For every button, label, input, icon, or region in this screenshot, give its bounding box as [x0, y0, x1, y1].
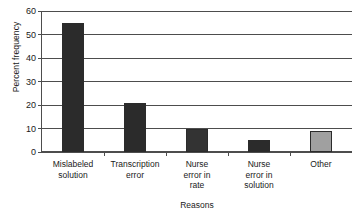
- category-label-line: Mislabeled: [42, 159, 104, 170]
- bar: [248, 140, 270, 152]
- y-axis-tick: [38, 105, 42, 106]
- category-label-line: Transcription: [104, 159, 166, 170]
- gridline: [42, 58, 352, 59]
- y-axis-title: Percent frequency: [11, 0, 21, 117]
- gridline: [42, 81, 352, 82]
- category-label-line: Nurse: [166, 159, 228, 170]
- x-axis-tick: [166, 152, 167, 156]
- bar: [310, 131, 332, 152]
- x-axis-category-label: Nurseerror insolution: [228, 159, 290, 191]
- y-axis-tick-label: 0: [31, 147, 36, 157]
- category-label-line: Other: [290, 159, 352, 170]
- gridline: [42, 34, 352, 35]
- bar: [186, 129, 208, 153]
- bar-chart: Percent frequency 0102030405060 Mislabel…: [0, 0, 359, 221]
- y-axis-tick-label: 40: [26, 53, 36, 63]
- x-axis-category-label: Nurseerror inrate: [166, 159, 228, 191]
- category-label-line: rate: [166, 180, 228, 191]
- x-axis-category-label: Other: [290, 159, 352, 170]
- y-axis-tick: [38, 81, 42, 82]
- y-axis-tick-label: 10: [26, 124, 36, 134]
- y-axis-tick-label: 30: [26, 77, 36, 87]
- category-label-line: error in: [166, 170, 228, 181]
- x-axis-tick: [104, 152, 105, 156]
- y-axis-tick-label: 50: [26, 30, 36, 40]
- y-axis-tick-label: 20: [26, 100, 36, 110]
- x-axis-title: Reasons: [42, 200, 352, 210]
- y-axis-tick-label: 60: [26, 6, 36, 16]
- category-label-line: solution: [228, 180, 290, 191]
- gridline: [42, 105, 352, 106]
- bar: [62, 23, 84, 152]
- y-axis-tick: [38, 152, 42, 153]
- category-label-line: solution: [42, 170, 104, 181]
- category-label-line: Nurse: [228, 159, 290, 170]
- x-axis-tick: [228, 152, 229, 156]
- x-axis-category-labels: MislabeledsolutionTranscriptionerrorNurs…: [42, 159, 352, 199]
- category-label-line: error: [104, 170, 166, 181]
- y-axis-tick: [38, 128, 42, 129]
- gridline: [42, 11, 352, 12]
- bar: [124, 103, 146, 152]
- plot-area: 0102030405060: [42, 11, 352, 152]
- y-axis-tick: [38, 11, 42, 12]
- x-axis-category-label: Mislabeledsolution: [42, 159, 104, 180]
- x-axis-tick: [290, 152, 291, 156]
- category-label-line: error in: [228, 170, 290, 181]
- y-axis-tick: [38, 58, 42, 59]
- y-axis-tick: [38, 34, 42, 35]
- x-axis-category-label: Transcriptionerror: [104, 159, 166, 180]
